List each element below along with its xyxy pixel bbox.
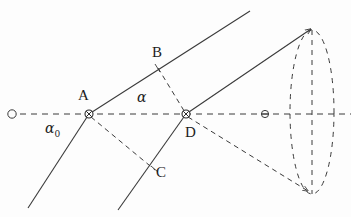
- projection-ellipse: [290, 30, 334, 194]
- label-point-B: B: [152, 45, 162, 60]
- ray-D-upper: [186, 29, 311, 114]
- label-point-D: D: [185, 125, 196, 140]
- solid-rays: [28, 11, 311, 210]
- point-D-marker: [182, 110, 190, 118]
- perpendicular-B-to-D: [158, 68, 186, 114]
- axis-mid-circle-marker: [261, 110, 269, 117]
- perpendicular-A-to-C: [91, 117, 155, 170]
- geometry-figure: A B C D α α0: [0, 0, 351, 217]
- label-angle-alpha-zero: α0: [45, 121, 60, 139]
- ray-D-lower: [118, 114, 186, 210]
- point-A-marker: [85, 110, 93, 118]
- label-point-A: A: [78, 88, 89, 103]
- origin-circle-marker: [8, 110, 16, 118]
- alpha-zero-subscript: 0: [54, 129, 60, 139]
- label-angle-alpha: α: [137, 90, 146, 104]
- dashed-construction-lines: [91, 68, 308, 191]
- ray-A-upper: [89, 11, 250, 114]
- label-point-C: C: [156, 165, 166, 180]
- figure-canvas: [0, 0, 351, 217]
